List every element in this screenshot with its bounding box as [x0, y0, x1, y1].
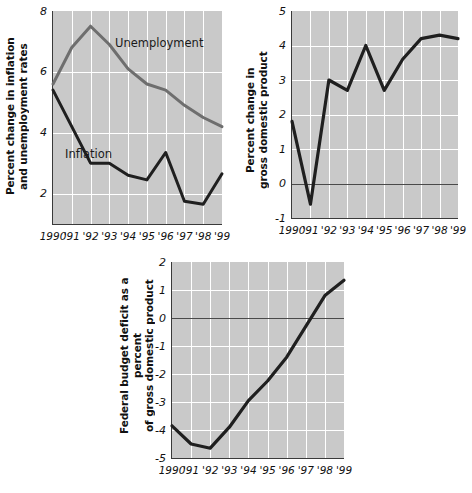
- series-annotation-unemployment: Unemployment: [115, 37, 203, 49]
- series-lines-2: [236, 0, 472, 250]
- series-lines-3: [110, 250, 372, 493]
- x-axis-line: [291, 218, 458, 219]
- series-line: [292, 35, 458, 204]
- chart-inflation-unemployment: Percent change in inflation and unemploy…: [0, 0, 236, 250]
- x-axis-line: [171, 458, 344, 459]
- series-annotation-inflation: Inflation: [65, 148, 112, 160]
- series-line: [172, 280, 344, 448]
- x-axis-line: [52, 224, 222, 225]
- chart-gdp: Percent change in gross domestic product…: [236, 0, 472, 250]
- chart-deficit: Federal budget deficit as a percent of g…: [110, 250, 372, 493]
